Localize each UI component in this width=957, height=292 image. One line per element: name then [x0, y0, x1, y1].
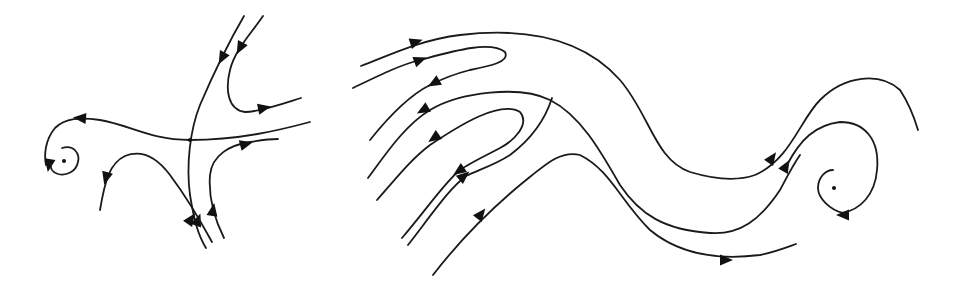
- streamline-top-meander: [361, 33, 918, 179]
- arrowhead-icon: [412, 52, 428, 67]
- arrowhead-icon: [73, 112, 87, 124]
- spiral-focus-point: [62, 159, 66, 163]
- arrowhead-icon: [232, 40, 248, 57]
- vortex-center-point: [832, 186, 836, 190]
- saddle-point: [188, 138, 192, 142]
- arrowhead-icon: [778, 157, 794, 174]
- arrowhead-icon: [239, 137, 254, 151]
- arrowhead-icon: [207, 202, 220, 217]
- streamline-lower-left: [100, 154, 212, 242]
- left-panel-saddle-spiral: [42, 16, 310, 248]
- streamline-fold-inner: [377, 109, 523, 238]
- streamline-vortex-inner: [818, 170, 843, 213]
- streamline-lower-right: [210, 139, 278, 238]
- arrowhead-icon: [214, 50, 230, 67]
- right-panel-meander-vortex: [353, 33, 918, 275]
- arrowhead-icon: [425, 130, 442, 146]
- streamline-vortex-outer: [787, 122, 877, 213]
- streamline-branch: [408, 98, 552, 245]
- streamline-separatrix-horizontal: [45, 119, 310, 165]
- arrowhead-icon: [425, 75, 442, 91]
- streamline-figure: [0, 0, 957, 292]
- streamline-bottom-meander: [433, 154, 796, 275]
- streamline-upper-right: [228, 16, 301, 112]
